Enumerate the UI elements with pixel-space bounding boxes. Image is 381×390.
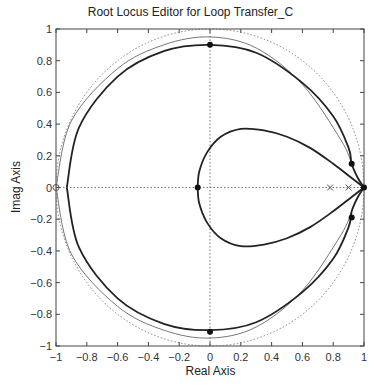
closed-loop-pole-marker (207, 42, 213, 48)
closed-loop-pole-marker (349, 215, 355, 221)
y-tick-label: 0.2 (37, 150, 52, 162)
y-tick-label: −1 (39, 340, 52, 352)
open-loop-pole-x-marker (327, 185, 333, 191)
y-tick-label: 0.4 (37, 118, 52, 130)
y-tick-label: −0.4 (30, 245, 52, 257)
closed-loop-pole-marker (349, 161, 355, 167)
y-tick-label: 0 (46, 182, 52, 194)
y-tick-label: 1 (46, 23, 52, 35)
x-tick-label: 0.2 (233, 351, 248, 363)
thin-locus-branch-upper (56, 37, 352, 188)
closed-loop-pole-marker (361, 185, 367, 191)
closed-loop-pole-marker (195, 185, 201, 191)
x-tick-label: −0.2 (168, 351, 190, 363)
outer-locus-branch-lower (67, 188, 364, 331)
thin-locus-branch-lower (56, 188, 352, 339)
x-tick-label: −1 (50, 351, 63, 363)
y-tick-label: 0.6 (37, 86, 52, 98)
x-tick-label: −0.4 (138, 351, 160, 363)
closed-loop-pole-marker (207, 329, 213, 335)
x-axis-label: Real Axis (56, 364, 365, 378)
x-tick-label: 1 (361, 351, 367, 363)
x-tick-label: 0.8 (326, 351, 341, 363)
x-tick-label: 0 (207, 351, 213, 363)
y-tick-label: 0.8 (37, 55, 52, 67)
y-axis-label: Imag Axis (9, 157, 23, 217)
y-tick-label: −0.8 (30, 308, 52, 320)
outer-locus-branch-upper (67, 45, 364, 188)
plot-area (53, 29, 367, 346)
y-tick-label: −0.6 (30, 277, 52, 289)
y-tick-label: −0.2 (30, 213, 52, 225)
x-tick-label: −0.8 (76, 351, 98, 363)
x-tick-label: 0.4 (264, 351, 279, 363)
x-tick-label: −0.6 (107, 351, 129, 363)
x-tick-label: 0.6 (295, 351, 310, 363)
root-locus-plot[interactable]: −1−0.8−0.6−0.4−0.200.20.40.60.8110.80.60… (0, 0, 381, 390)
